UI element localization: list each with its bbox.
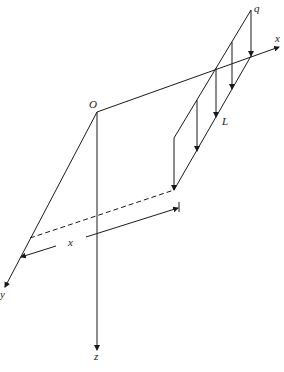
length-label: L bbox=[221, 115, 228, 127]
x-axis-label: x bbox=[274, 32, 280, 44]
load-top-edge bbox=[174, 10, 251, 138]
projection-dashed-line bbox=[30, 190, 174, 238]
load-label: q bbox=[254, 2, 260, 14]
x-axis bbox=[97, 47, 279, 112]
z-axis-label: z bbox=[93, 350, 99, 362]
dimension-arrow-right bbox=[86, 208, 178, 237]
dimension-label: x bbox=[67, 236, 73, 248]
origin-label: O bbox=[89, 98, 97, 110]
y-axis-label: y bbox=[0, 288, 5, 300]
beam-line bbox=[174, 56, 251, 190]
y-axis bbox=[5, 112, 97, 287]
beam-load-diagram: O x y z q L x bbox=[0, 0, 284, 372]
